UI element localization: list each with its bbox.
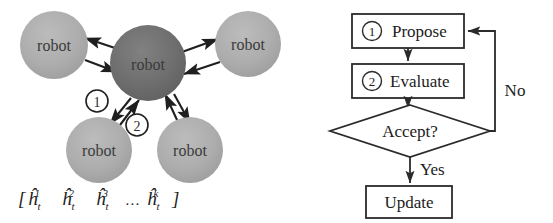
robot-node-bottom-right[interactable]: robot	[157, 117, 223, 183]
arrow-topright-to-center	[184, 62, 220, 74]
state-vector-bracket-open: [	[18, 188, 27, 209]
state-vector-bracket-close: ]	[171, 188, 179, 209]
figure-canvas: robot robot robot robot robot	[0, 0, 553, 223]
step-marker-label: 1	[369, 24, 376, 39]
arrow-center-to-topright	[182, 39, 218, 52]
robot-node-label: robot	[131, 56, 165, 73]
step-marker-label: 2	[134, 119, 141, 134]
robot-node-label: robot	[231, 36, 265, 53]
multi-robot-communication-panel: robot robot robot robot robot	[18, 11, 281, 212]
propose-evaluate-flowchart-panel: 1 Propose 2 Evaluate Accept? No	[330, 14, 525, 218]
flow-node-accept[interactable]: Accept?	[330, 105, 490, 157]
edge-accept-no-to-propose	[468, 31, 495, 131]
edge-label-no: No	[505, 81, 526, 100]
index-superscript: 1	[35, 187, 41, 199]
index-superscript: k	[154, 187, 160, 199]
robot-node-label: robot	[173, 142, 207, 159]
state-vector-term-k: ĥtk	[147, 187, 161, 212]
figure-root: robot robot robot robot robot	[0, 0, 553, 223]
robot-node-top-right[interactable]: robot	[215, 11, 281, 77]
flow-node-evaluate[interactable]: 2 Evaluate	[352, 64, 464, 98]
flow-node-update[interactable]: Update	[366, 186, 452, 218]
robot-node-top-left[interactable]: robot	[20, 11, 88, 79]
time-subscript: t	[38, 200, 42, 212]
step-marker-1: 1	[86, 90, 108, 112]
flow-node-label: Accept?	[382, 122, 438, 141]
robot-node-center[interactable]: robot	[110, 25, 186, 101]
edge-center-topright	[182, 39, 220, 74]
robot-node-bottom-left[interactable]: robot	[66, 117, 132, 183]
flow-node-label: Update	[384, 193, 433, 212]
state-vector-ellipsis: …	[126, 192, 139, 208]
robot-node-label: robot	[37, 37, 71, 54]
index-superscript: 2	[69, 187, 75, 199]
robot-node-label: robot	[82, 142, 116, 159]
flow-node-propose[interactable]: 1 Propose	[352, 14, 464, 48]
flow-node-label: Propose	[392, 22, 447, 41]
state-vector-term-2: ĥt2	[62, 187, 76, 212]
index-superscript: 3	[102, 187, 109, 199]
step-marker-2: 2	[126, 114, 148, 136]
arrow-center-to-topleft	[85, 38, 115, 48]
state-vector-term-3: ĥt3	[96, 187, 110, 212]
state-vector-annotation: [ ĥt1 ĥt2 ĥt3 … ĥtk ]	[18, 187, 179, 212]
time-subscript: t	[106, 200, 110, 212]
edge-label-yes: Yes	[420, 160, 445, 179]
time-subscript: t	[72, 200, 76, 212]
step-marker-label: 2	[369, 74, 376, 89]
flow-node-label: Evaluate	[390, 72, 449, 91]
state-vector-term-1: ĥt1	[28, 187, 42, 212]
step-marker-label: 1	[94, 95, 101, 110]
time-subscript: t	[157, 200, 161, 212]
